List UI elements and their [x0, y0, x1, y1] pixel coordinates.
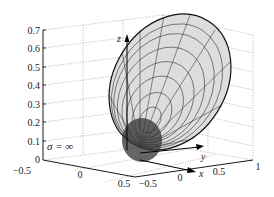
svg-text:0.7: 0.7	[28, 25, 41, 36]
x-tick-labels: −0.5 0 0.5	[13, 165, 130, 189]
svg-text:0.5: 0.5	[213, 166, 226, 177]
z-tick-labels: 0.7 0.6 0.5 0.4 0.3 0.2 0.1 0	[28, 25, 41, 165]
chart-figure: z y x 0.7 0.6 0.5 0.4 0.3 0.2 0.1 0 −0.5…	[0, 0, 274, 197]
svg-text:0.1: 0.1	[28, 136, 41, 147]
svg-text:0.4: 0.4	[28, 80, 41, 91]
svg-text:0.5: 0.5	[118, 178, 131, 189]
x-axis-arrow: x	[140, 160, 204, 179]
svg-text:−0.5: −0.5	[13, 165, 31, 176]
x-label: x	[198, 168, 204, 179]
surface-plot: z y x 0.7 0.6 0.5 0.4 0.3 0.2 0.1 0 −0.5…	[0, 0, 274, 197]
svg-text:0.6: 0.6	[28, 43, 41, 54]
svg-text:1: 1	[256, 161, 261, 172]
svg-text:0.3: 0.3	[28, 99, 41, 110]
svg-text:0.2: 0.2	[28, 117, 41, 128]
svg-text:−0.5: −0.5	[139, 178, 157, 189]
y-label: y	[200, 151, 206, 162]
sigma-annotation: σ = ∞	[47, 140, 73, 152]
svg-text:0: 0	[78, 169, 83, 180]
svg-text:0: 0	[178, 172, 183, 183]
svg-text:0: 0	[35, 154, 40, 165]
wireframe-lobe	[84, 0, 255, 173]
z-label: z	[116, 33, 121, 44]
svg-text:0.5: 0.5	[28, 62, 41, 73]
